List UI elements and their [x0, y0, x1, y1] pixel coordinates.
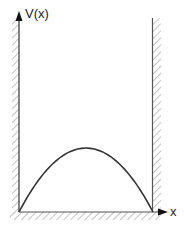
- x-axis-label: x: [170, 205, 177, 218]
- y-axis-label: V(x): [25, 7, 49, 20]
- potential-diagram: [0, 0, 184, 235]
- left-wall-hatch: [12, 20, 19, 212]
- floor-hatch: [10, 212, 162, 220]
- x-axis-arrow-icon: [158, 209, 168, 216]
- y-axis-arrow-icon: [16, 11, 23, 21]
- right-wall-hatch: [153, 18, 161, 212]
- potential-curve: [19, 148, 153, 212]
